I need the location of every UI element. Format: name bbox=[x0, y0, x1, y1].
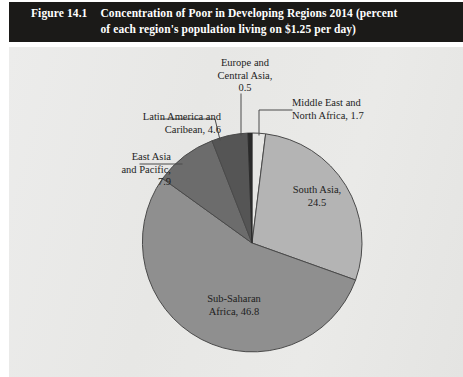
pie-label-mena-line-2: North Africa, 1.7 bbox=[292, 110, 427, 123]
figure-title-text: Concentration of Poor in Developing Regi… bbox=[100, 6, 397, 37]
pie-label-south-asia: South Asia, 24.5 bbox=[263, 184, 371, 209]
pie-label-europe-line-1: Europe and bbox=[181, 57, 309, 70]
pie-label-europe-value: 0.5 bbox=[181, 82, 309, 95]
pie-label-east-asia-pacific: East Asia and Pacific, 7.9 bbox=[55, 151, 171, 189]
figure-title-line-1: Concentration of Poor in Developing Regi… bbox=[100, 6, 397, 22]
pie-label-middle-east-north-africa: Middle East and North Africa, 1.7 bbox=[292, 97, 427, 122]
pie-label-subsaharan-line-2: Africa, 46.8 bbox=[164, 306, 304, 319]
figure-number: Figure 14.1 bbox=[31, 6, 87, 22]
leader-line-middle-east-north-africa bbox=[259, 110, 292, 135]
pie-label-eastasia-value: 7.9 bbox=[55, 176, 171, 189]
pie-label-latin-line-2: Caribean, 4.6 bbox=[93, 124, 221, 137]
pie-label-latin-line-1: Latin America and bbox=[93, 111, 221, 124]
pie-label-eastasia-line-2: and Pacific, bbox=[55, 164, 171, 177]
pie-label-subsaharan-line-1: Sub-Saharan bbox=[164, 293, 304, 306]
figure-title-inner: Figure 14.1 Concentration of Poor in Dev… bbox=[31, 6, 457, 37]
figure-title-bar: Figure 14.1 Concentration of Poor in Dev… bbox=[9, 2, 463, 42]
pie-label-southasia-value: 24.5 bbox=[263, 197, 371, 210]
chart-panel: Europe and Central Asia, 0.5 Middle East… bbox=[9, 47, 463, 377]
pie-label-mena-line-1: Middle East and bbox=[292, 97, 427, 110]
pie-slices bbox=[142, 133, 362, 352]
figure-title-line-2: of each region's population living on $1… bbox=[100, 22, 397, 38]
pie-label-europe-central-asia: Europe and Central Asia, 0.5 bbox=[181, 57, 309, 95]
pie-label-eastasia-line-1: East Asia bbox=[55, 151, 171, 164]
pie-label-latin-america-caribean: Latin America and Caribean, 4.6 bbox=[93, 111, 221, 136]
pie-label-southasia-line-1: South Asia, bbox=[263, 184, 371, 197]
pie-label-europe-line-2: Central Asia, bbox=[181, 70, 309, 83]
pie-label-sub-saharan-africa: Sub-Saharan Africa, 46.8 bbox=[164, 293, 304, 318]
